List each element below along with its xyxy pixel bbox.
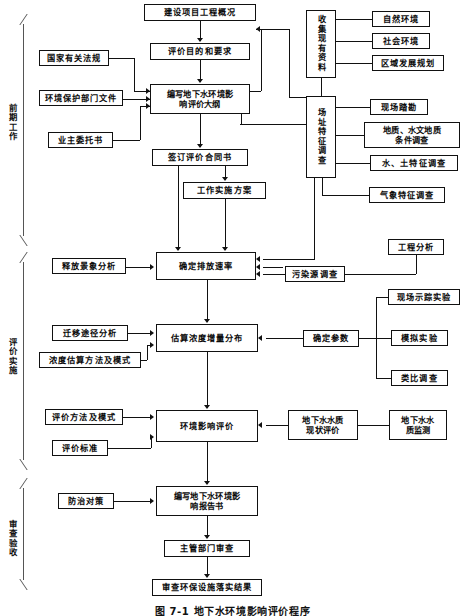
edge-outline-to-contract bbox=[200, 114, 201, 147]
arrow-workplan-down bbox=[222, 247, 228, 251]
edge-gwquality-to-impact bbox=[266, 425, 289, 426]
edge-evalmethod-to-impact bbox=[123, 417, 151, 418]
arrow-collect-to-outline bbox=[256, 26, 260, 32]
node-sign-contract[interactable]: 签订评价合同书 bbox=[152, 149, 248, 166]
node-authority-review[interactable]: 主管部门审查 bbox=[164, 540, 250, 557]
arrow-outline-to-contract bbox=[197, 144, 203, 148]
node-collect-data[interactable]: 收集现有资料 bbox=[306, 10, 336, 78]
edge-site-meteo-h bbox=[322, 195, 370, 196]
edge-site-left-h bbox=[240, 124, 306, 125]
edge-engineering-h bbox=[345, 274, 416, 275]
node-pollution-source[interactable]: 污染源调查 bbox=[285, 266, 345, 282]
node-write-report[interactable]: 编写地下水环境影 响报告书 bbox=[156, 486, 258, 516]
node-meteorology[interactable]: 气象特征调查 bbox=[369, 187, 445, 203]
edge-method-h bbox=[141, 360, 147, 361]
node-work-plan[interactable]: 工作实施方案 bbox=[183, 182, 266, 199]
edge-collect-to-social bbox=[336, 41, 372, 42]
edge-prevention-to-report bbox=[114, 501, 151, 502]
edge-collect-to-regional bbox=[336, 63, 372, 64]
node-outline[interactable]: 编写地下水环境影 响评价大纲 bbox=[150, 84, 250, 114]
arrow-params-to-estimate bbox=[258, 335, 262, 341]
arrow-estimate-to-impact bbox=[204, 405, 210, 409]
edge-outline-feed-h bbox=[250, 91, 261, 92]
arrow-method-to-estimate bbox=[150, 342, 154, 348]
edge-collect-left-v bbox=[289, 29, 290, 97]
node-natural-env[interactable]: 自然环境 bbox=[372, 11, 430, 27]
edge-params-to-analogy bbox=[376, 378, 392, 379]
node-determine-params[interactable]: 确定参数 bbox=[303, 330, 359, 347]
edge-params-to-tracer bbox=[376, 297, 389, 298]
arrow-impact-to-report bbox=[204, 481, 210, 485]
arrow-prevention-to-report bbox=[150, 498, 154, 504]
node-site-survey[interactable]: 场址特征调查 bbox=[306, 96, 336, 178]
edge-workplan-down bbox=[225, 199, 226, 250]
node-estimate-concentration[interactable]: 估算浓度增量分布 bbox=[156, 324, 258, 352]
node-water-soil[interactable]: 水、土特征调查 bbox=[370, 155, 458, 171]
phase-label-preliminary-work: 前期工作 bbox=[6, 104, 18, 142]
edge-impact-to-report bbox=[207, 442, 208, 484]
edge-pollution-to-discharge bbox=[263, 274, 286, 275]
node-eval-method[interactable]: 评价方法及模式 bbox=[45, 409, 123, 425]
node-project-overview[interactable]: 建设项目工程概况 bbox=[144, 4, 256, 21]
node-concentration-method[interactable]: 浓度估算方法及模式 bbox=[39, 352, 141, 368]
edge-discharge-to-estimate bbox=[207, 280, 208, 322]
node-prevention-measures[interactable]: 防治对策 bbox=[58, 493, 114, 509]
edge-migration-to-estimate bbox=[128, 333, 151, 334]
arrow-contract-down-left bbox=[175, 247, 181, 251]
node-national-regulations[interactable]: 国家有关法规 bbox=[39, 50, 109, 66]
node-groundwater-quality-monitor[interactable]: 地下水水 质监测 bbox=[389, 410, 447, 440]
edge-method-v bbox=[147, 345, 148, 360]
node-discharge-rate[interactable]: 确定排放速率 bbox=[156, 252, 256, 280]
edge-collect-down bbox=[321, 78, 322, 98]
edge-params-to-estimate bbox=[266, 338, 304, 339]
edge-site-to-watersoil bbox=[336, 163, 370, 164]
edge-owner-h1 bbox=[113, 140, 140, 141]
arrow-migration-to-estimate bbox=[150, 330, 154, 336]
node-social-env[interactable]: 社会环境 bbox=[372, 33, 430, 49]
node-facility-check[interactable]: 审查环保设施落实结果 bbox=[152, 579, 262, 596]
edge-site-to-geology bbox=[336, 135, 364, 136]
arrow-discharge-to-estimate bbox=[204, 319, 210, 323]
arrow-review-to-facility bbox=[204, 574, 210, 578]
edge-evalstd-to-impact bbox=[108, 448, 151, 449]
node-engineering-analysis[interactable]: 工程分析 bbox=[388, 239, 444, 255]
node-owner-commission[interactable]: 业主委托书 bbox=[48, 132, 113, 148]
edge-discharge-side-feed bbox=[263, 267, 283, 268]
edge-release-to-discharge bbox=[126, 267, 151, 268]
node-geology-hydro[interactable]: 地质、水文地质 条件调查 bbox=[364, 122, 460, 148]
edge-regulations-h1 bbox=[109, 58, 134, 59]
node-analogy-survey[interactable]: 类比调查 bbox=[391, 370, 448, 386]
edge-site-left-v bbox=[241, 114, 242, 125]
edge-site-down-v bbox=[314, 178, 315, 260]
node-field-recon[interactable]: 现场踏勘 bbox=[370, 99, 428, 115]
node-regional-plan[interactable]: 区域发展规划 bbox=[372, 55, 444, 71]
edge-owner-v bbox=[140, 106, 141, 140]
node-tracer-experiment[interactable]: 现场示踪实验 bbox=[388, 289, 460, 305]
edge-regulations-v bbox=[134, 58, 135, 91]
arrow-evalmethod-to-impact bbox=[150, 414, 154, 420]
arrow-overview-to-purpose bbox=[197, 38, 203, 42]
edge-site-meteo-v bbox=[322, 178, 323, 196]
arrow-gwquality-to-impact bbox=[258, 422, 262, 428]
arrow-discharge-side-feed bbox=[256, 264, 260, 270]
phase-label-evaluation-implementation: 评价实施 bbox=[6, 338, 18, 376]
edge-params-to-simulation bbox=[376, 338, 392, 339]
node-env-impact-eval[interactable]: 环境影响评价 bbox=[156, 410, 258, 442]
arrow-pollution-to-discharge bbox=[256, 271, 260, 277]
node-epa-documents[interactable]: 环境保护部门文件 bbox=[39, 90, 123, 106]
arrow-evalstd-to-impact bbox=[150, 434, 154, 440]
figure-caption: 图 7-1 地下水环境影响评价程序 bbox=[0, 603, 465, 616]
node-migration-path[interactable]: 迁移途径分析 bbox=[52, 325, 128, 341]
node-simulation-experiment[interactable]: 模拟实验 bbox=[391, 330, 448, 346]
edge-engineering-v bbox=[416, 255, 417, 274]
arrow-purpose-to-outline bbox=[197, 79, 203, 83]
node-eval-standard[interactable]: 评价标准 bbox=[52, 440, 108, 456]
arrow-release-to-discharge bbox=[150, 264, 154, 270]
edge-site-to-recon bbox=[336, 107, 370, 108]
node-purpose-requirements[interactable]: 评价目的和要求 bbox=[150, 43, 250, 60]
edge-gwquality-to-monitor bbox=[358, 425, 389, 426]
node-release-scenario[interactable]: 释放景象分析 bbox=[52, 258, 126, 274]
edge-collect-to-natural bbox=[336, 19, 372, 20]
edge-site-down-h bbox=[263, 259, 314, 260]
node-groundwater-quality-eval[interactable]: 地下水水质 现状评价 bbox=[288, 410, 358, 440]
